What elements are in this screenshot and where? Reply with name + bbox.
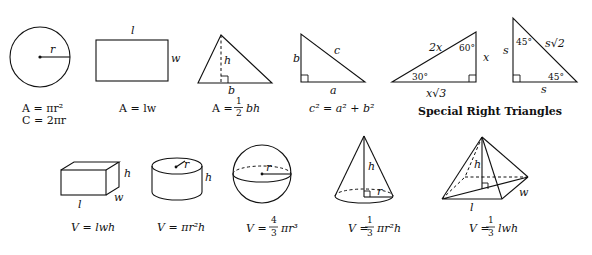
triangle-30-60-90-label-hyp: 2x [428,41,443,54]
triangle-30-60-90-angle-30: 30° [412,72,428,82]
prism-top-face [61,162,119,170]
right-angle-marker-icon [301,75,308,82]
special-right-triangles-caption: Special Right Triangles [418,105,562,118]
right-triangle-figure: c b a c² = a² + b² [293,34,374,115]
right-angle-marker-icon [513,75,520,82]
cylinder-bottom-arc [152,192,202,200]
pyramid-edge-back-left [465,137,482,177]
right-angle-marker-icon [364,191,370,197]
rectangle-shape [96,40,168,81]
circle-circumference-formula: C = 2πr [22,114,67,127]
prism-label-w: w [114,191,124,204]
rectangular-prism-figure: h w l V = lwh [61,162,131,234]
cylinder-figure: r h V = πr²h [152,158,212,234]
prism-front-face [61,170,106,195]
right-triangle-label-c: c [334,44,340,57]
cone-left-side [335,136,364,196]
triangle-45-45-90-label-horizontal: s [541,83,547,96]
triangle-30-60-90-figure: 2x 60° x 30° x√3 [392,32,490,100]
sphere-formula-lhs: V = [246,222,267,235]
rectangle-label-l: l [131,24,135,37]
prism-label-l: l [78,198,82,211]
triangle-45-45-90-angle-top: 45° [516,37,532,47]
triangle-formula-lhs: A = [211,102,233,115]
triangle-30-60-90-label-short: x [483,51,490,64]
rectangle-figure: l w A = lw [96,24,181,115]
geometry-reference-sheet: r A = πr² C = 2πr l w A = lw h b A = 1 2… [0,0,592,255]
triangle-30-60-90-angle-60: 60° [459,43,475,53]
circle-label-r: r [50,43,56,56]
cone-formula-denominator: 3 [367,228,373,238]
cone-label-r: r [377,185,383,198]
triangle-formula-denominator: 2 [236,108,242,118]
triangle-30-60-90-shape [392,32,476,82]
sphere-formula-numerator: 4 [271,215,277,225]
triangle-30-60-90-label-long: x√3 [426,87,446,100]
triangle-45-45-90-figure: 45° s√2 s 45° s [503,18,577,96]
pyramid-formula-lhs: V = [469,222,490,235]
triangle-45-45-90-angle-bottom: 45° [548,72,564,82]
triangle-45-45-90-label-hyp: s√2 [545,37,565,50]
cone-formula-lhs: V = [348,222,369,235]
rectangle-label-w: w [171,52,181,65]
right-angle-marker-icon [469,75,476,82]
sphere-figure: r V = 4 3 πr³ [233,145,298,238]
triangle-formula-rhs: bh [246,102,260,115]
right-angle-marker-icon [221,76,228,83]
prism-volume-formula: V = lwh [71,221,115,234]
sphere-label-r: r [266,161,272,174]
triangle-formula-numerator: 1 [236,96,242,106]
pyramid-figure: h w l V = 1 3 lwh [442,137,529,238]
triangle-shape [198,35,272,83]
triangle-figure: h b A = 1 2 bh [198,35,272,118]
triangle-45-45-90-label-vertical: s [503,44,509,57]
rectangle-area-formula: A = lw [118,102,157,115]
cone-formula-numerator: 1 [367,215,373,225]
sphere-formula-denominator: 3 [271,228,277,238]
pyramid-label-l: l [470,201,474,214]
cone-label-h: h [368,160,375,173]
pyramid-label-w: w [519,186,529,199]
prism-label-h: h [124,167,131,180]
cone-figure: h r V = 1 3 πr²h [335,136,401,238]
sphere-formula-rhs: πr³ [280,222,298,235]
cylinder-volume-formula: V = πr²h [157,221,205,234]
cone-formula-rhs: πr²h [376,222,401,235]
right-triangle-shape [301,34,365,82]
triangle-label-b: b [228,84,235,97]
pyramid-formula-rhs: lwh [498,222,518,235]
pyramid-formula-denominator: 3 [488,228,494,238]
triangle-label-h: h [224,54,231,67]
triangle-45-45-90-shape [513,18,577,82]
pyramid-base-front [442,177,528,199]
cylinder-label-h: h [205,171,212,184]
pythagorean-formula: c² = a² + b² [309,102,374,115]
circle-figure: r A = πr² C = 2πr [10,27,70,127]
pyramid-label-h: h [474,158,481,171]
cylinder-label-r: r [184,158,190,171]
right-triangle-label-b: b [293,52,300,65]
right-triangle-label-a: a [330,84,337,97]
pyramid-formula-numerator: 1 [488,215,494,225]
